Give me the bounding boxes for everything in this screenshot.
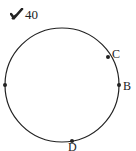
label-d: D xyxy=(68,140,77,151)
circle-diagram: C B D xyxy=(0,0,136,151)
point-a xyxy=(3,83,7,87)
circle xyxy=(5,28,119,142)
point-c xyxy=(106,55,110,59)
label-b: B xyxy=(123,79,131,93)
point-b xyxy=(117,83,121,87)
label-c: C xyxy=(112,47,120,61)
